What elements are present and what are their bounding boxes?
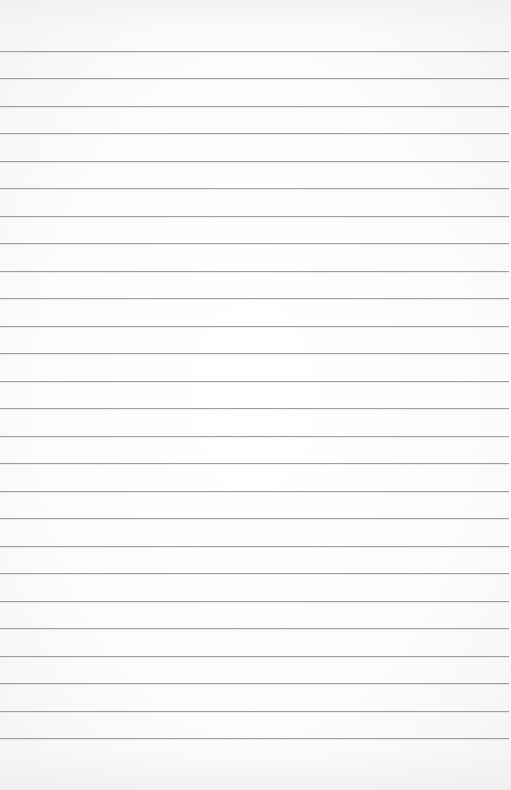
ruled-line xyxy=(0,463,509,464)
ruled-line xyxy=(0,326,509,327)
ruled-line xyxy=(0,628,509,629)
ruled-line xyxy=(0,161,509,162)
ruled-line xyxy=(0,491,509,492)
ruled-line xyxy=(0,656,509,657)
ruled-line xyxy=(0,683,509,684)
ruled-line xyxy=(0,298,509,299)
ruled-line xyxy=(0,243,509,244)
ruled-line xyxy=(0,546,509,547)
ruled-line xyxy=(0,711,509,712)
ruled-line xyxy=(0,188,509,189)
ruled-line xyxy=(0,518,509,519)
ruled-line xyxy=(0,738,509,739)
ruled-line xyxy=(0,271,509,272)
ruled-line xyxy=(0,51,509,52)
ruled-line xyxy=(0,78,509,79)
ruled-line xyxy=(0,573,509,574)
ruled-line xyxy=(0,436,509,437)
ruled-line xyxy=(0,601,509,602)
ruled-line xyxy=(0,353,509,354)
ruled-line xyxy=(0,106,509,107)
ruled-line xyxy=(0,381,509,382)
ruled-line xyxy=(0,133,509,134)
ruled-line xyxy=(0,216,509,217)
ruled-paper-sheet xyxy=(0,0,511,790)
ruled-line xyxy=(0,408,509,409)
